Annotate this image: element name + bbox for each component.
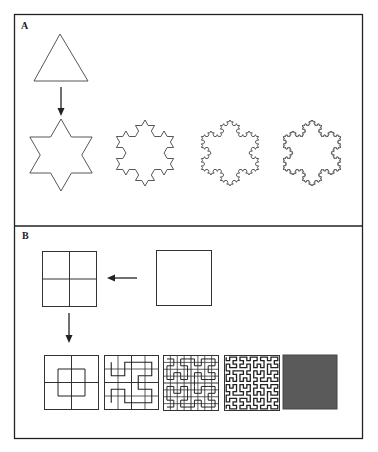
panel-label-a: A — [21, 20, 28, 31]
fractal-figure — [0, 0, 378, 452]
subdivided-square — [43, 252, 97, 307]
hilbert-order-3 — [164, 356, 219, 411]
arrow-down-icon — [66, 313, 73, 343]
koch-iteration-1 — [30, 119, 92, 191]
panel-a — [30, 34, 341, 191]
hilbert-order-1 — [45, 356, 99, 410]
filled-square — [283, 355, 337, 409]
koch-iteration-4 — [283, 120, 340, 186]
arrow-left-icon — [107, 275, 137, 282]
hilbert-order-5 — [225, 356, 280, 411]
initiator-triangle — [34, 34, 88, 81]
hilbert-order-2 — [105, 356, 159, 410]
koch-iteration-3 — [201, 120, 258, 186]
arrow-down-icon — [58, 87, 65, 116]
panel-b — [43, 251, 338, 411]
panel-label-b: B — [22, 230, 29, 241]
initiator-square — [157, 251, 212, 306]
koch-iteration-2 — [116, 120, 173, 186]
